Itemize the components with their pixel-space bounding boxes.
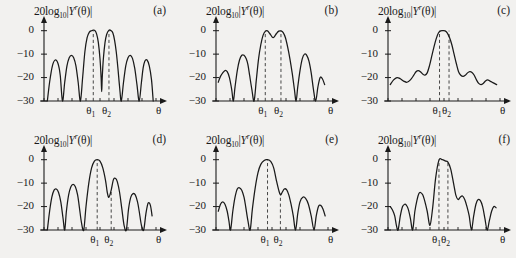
y-tick-label: −30 bbox=[180, 223, 206, 235]
theta-subscript: 1 bbox=[95, 239, 99, 248]
x-marker-label-theta1: θ1 bbox=[432, 233, 441, 248]
theta-subscript: 1 bbox=[92, 110, 96, 119]
x-axis-label: θ bbox=[156, 104, 161, 116]
beampattern-panel-a: 20log10|Yr(θ)|(a)0−10−20−30θ1θ2θ bbox=[0, 0, 172, 129]
theta-subscript: 2 bbox=[107, 110, 111, 119]
x-marker-label-theta1: θ1 bbox=[90, 233, 99, 248]
x-marker-label-theta1: θ1 bbox=[86, 104, 95, 119]
theta-subscript: 1 bbox=[266, 239, 270, 248]
x-axis-label: θ bbox=[500, 233, 505, 245]
y-tick-label: −20 bbox=[180, 70, 206, 82]
y-tick-label: −20 bbox=[180, 199, 206, 211]
figure-panel-grid: 20log10|Yr(θ)|(a)0−10−20−30θ1θ2θ20log10|… bbox=[0, 0, 516, 258]
y-tick-label: 0 bbox=[8, 23, 34, 35]
beampattern-curve bbox=[218, 31, 324, 101]
beampattern-panel-e: 20log10|Yr(θ)|(e)0−10−20−30θ1θ2θ bbox=[172, 129, 344, 258]
y-tick-label: 0 bbox=[352, 23, 378, 35]
y-tick-label: −20 bbox=[8, 199, 34, 211]
y-tick-label: −10 bbox=[180, 176, 206, 188]
y-tick-label: −10 bbox=[352, 47, 378, 59]
y-tick-label: −10 bbox=[8, 176, 34, 188]
theta-subscript: 2 bbox=[279, 110, 283, 119]
beampattern-panel-b: 20log10|Yr(θ)|(b)0−10−20−30θ1θ2θ bbox=[172, 0, 344, 129]
x-marker-label-theta2: θ2 bbox=[441, 233, 450, 248]
beampattern-panel-f: 20log10|Yr(θ)|(f)0−10−20−30θ1θ2θ bbox=[344, 129, 516, 258]
y-tick-label: 0 bbox=[352, 152, 378, 164]
x-marker-label-theta1: θ1 bbox=[258, 104, 267, 119]
y-tick-label: −10 bbox=[8, 47, 34, 59]
beampattern-curve bbox=[47, 160, 152, 231]
y-tick-label: 0 bbox=[180, 23, 206, 35]
beampattern-curve bbox=[390, 31, 496, 85]
y-tick-label: −20 bbox=[352, 70, 378, 82]
y-tick-label: −10 bbox=[352, 176, 378, 188]
y-tick-label: −30 bbox=[352, 223, 378, 235]
y-tick-label: −30 bbox=[8, 223, 34, 235]
x-marker-label-theta2: θ2 bbox=[102, 104, 111, 119]
x-axis-label: θ bbox=[328, 104, 333, 116]
x-marker-label-theta1: θ1 bbox=[261, 233, 270, 248]
theta-subscript: 2 bbox=[447, 110, 451, 119]
x-marker-label-theta2: θ2 bbox=[442, 104, 451, 119]
theta-subscript: 2 bbox=[279, 239, 283, 248]
y-tick-label: −30 bbox=[180, 94, 206, 106]
y-tick-label: −10 bbox=[180, 47, 206, 59]
x-axis-label: θ bbox=[156, 233, 161, 245]
x-marker-label-theta2: θ2 bbox=[104, 233, 113, 248]
y-tick-label: −30 bbox=[8, 94, 34, 106]
y-tick-label: −20 bbox=[352, 199, 378, 211]
theta-subscript: 1 bbox=[264, 110, 268, 119]
y-tick-label: −20 bbox=[8, 70, 34, 82]
x-marker-label-theta1: θ1 bbox=[433, 104, 442, 119]
beampattern-curve bbox=[47, 30, 153, 101]
beampattern-panel-d: 20log10|Yr(θ)|(d)0−10−20−30θ1θ2θ bbox=[0, 129, 172, 258]
y-tick-label: 0 bbox=[180, 152, 206, 164]
x-axis-label: θ bbox=[500, 104, 505, 116]
beampattern-curve bbox=[218, 160, 325, 231]
beampattern-panel-c: 20log10|Yr(θ)|(c)0−10−20−30θ1θ2θ bbox=[344, 0, 516, 129]
theta-subscript: 2 bbox=[109, 239, 113, 248]
x-marker-label-theta2: θ2 bbox=[273, 233, 282, 248]
theta-subscript: 1 bbox=[438, 110, 442, 119]
x-axis-label: θ bbox=[328, 233, 333, 245]
y-tick-label: 0 bbox=[8, 152, 34, 164]
theta-subscript: 2 bbox=[446, 239, 450, 248]
beampattern-curve bbox=[390, 159, 496, 231]
y-tick-label: −30 bbox=[352, 94, 378, 106]
x-marker-label-theta2: θ2 bbox=[274, 104, 283, 119]
